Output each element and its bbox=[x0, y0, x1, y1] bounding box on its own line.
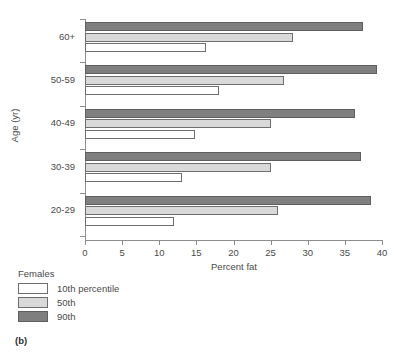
legend-swatch bbox=[18, 297, 48, 308]
x-axis-tick-label: 25 bbox=[251, 247, 291, 258]
bar bbox=[85, 43, 206, 52]
x-axis-tick bbox=[234, 240, 235, 245]
bar bbox=[85, 206, 278, 215]
x-axis-tick bbox=[85, 240, 86, 245]
legend-item-label: 50th bbox=[57, 297, 76, 308]
bar bbox=[85, 173, 182, 182]
y-axis-tick bbox=[80, 236, 86, 237]
y-axis-tick bbox=[80, 62, 86, 63]
figure-panel-b: 0510152025303540 60+50-5940-4930-3920-29… bbox=[0, 0, 404, 355]
bar bbox=[85, 22, 363, 31]
x-axis-tick-label: 15 bbox=[176, 247, 216, 258]
legend-entries: 10th percentile50th90th bbox=[18, 283, 218, 322]
bar bbox=[85, 86, 219, 95]
bar bbox=[85, 152, 361, 161]
legend-swatch bbox=[18, 311, 48, 322]
legend-item: 50th bbox=[18, 297, 218, 308]
x-axis-tick bbox=[308, 240, 309, 245]
legend: Females 10th percentile50th90th bbox=[18, 268, 218, 325]
bar bbox=[85, 109, 355, 118]
x-axis-tick-label: 20 bbox=[214, 247, 254, 258]
legend-item-label: 90th bbox=[57, 311, 76, 322]
x-axis-tick bbox=[159, 240, 160, 245]
x-axis-tick-label: 10 bbox=[139, 247, 179, 258]
x-axis-tick bbox=[345, 240, 346, 245]
figure-caption: (b) bbox=[15, 335, 27, 346]
y-axis-tick bbox=[80, 19, 86, 20]
x-axis-tick-label: 30 bbox=[288, 247, 328, 258]
bar bbox=[85, 163, 271, 172]
legend-item: 10th percentile bbox=[18, 283, 218, 294]
x-axis-tick-label: 35 bbox=[325, 247, 365, 258]
x-axis-tick-label: 5 bbox=[102, 247, 142, 258]
y-axis-tick bbox=[80, 149, 86, 150]
legend-swatch bbox=[18, 283, 48, 294]
x-axis-tick-label: 0 bbox=[65, 247, 105, 258]
y-axis-tick bbox=[80, 106, 86, 107]
y-axis-category-label: 60+ bbox=[22, 31, 75, 42]
legend-item-label: 10th percentile bbox=[57, 283, 119, 294]
bar bbox=[85, 119, 271, 128]
y-axis-category-label: 50-59 bbox=[22, 74, 75, 85]
bar bbox=[85, 76, 284, 85]
x-axis-tick bbox=[196, 240, 197, 245]
y-axis-category-label: 30-39 bbox=[22, 161, 75, 172]
y-axis-category-label: 20-29 bbox=[22, 204, 75, 215]
legend-item: 90th bbox=[18, 311, 218, 322]
legend-title: Females bbox=[18, 268, 218, 279]
bar bbox=[85, 33, 293, 42]
bar bbox=[85, 65, 377, 74]
x-axis-tick-label: 40 bbox=[362, 247, 402, 258]
y-axis-category-label: 40-49 bbox=[22, 117, 75, 128]
x-axis-tick bbox=[382, 240, 383, 245]
x-axis-tick bbox=[122, 240, 123, 245]
x-axis-tick bbox=[271, 240, 272, 245]
y-axis-tick bbox=[80, 193, 86, 194]
bar bbox=[85, 130, 195, 139]
bar bbox=[85, 196, 371, 205]
y-axis-title: Age (yr) bbox=[9, 86, 20, 166]
bar bbox=[85, 217, 174, 226]
